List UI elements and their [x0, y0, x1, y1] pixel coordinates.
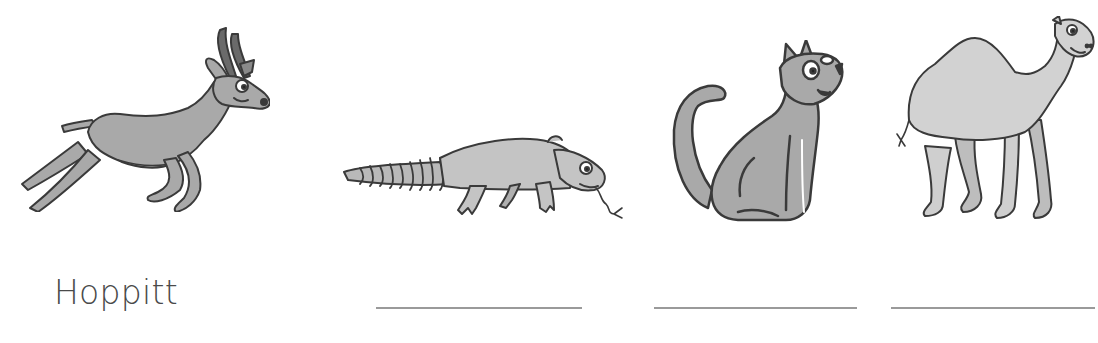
answer-line-cat[interactable] — [654, 307, 857, 309]
answer-line-camel[interactable] — [891, 307, 1095, 309]
cat-picture — [668, 40, 848, 222]
lizard-icon — [340, 128, 625, 223]
camel-picture — [895, 16, 1095, 221]
antelope-picture — [8, 12, 270, 212]
answer-line-lizard[interactable] — [376, 307, 582, 309]
answer-label-antelope: Hoppitt — [54, 276, 178, 309]
cat-icon — [668, 40, 848, 222]
camel-icon — [895, 16, 1095, 221]
antelope-icon — [8, 12, 270, 212]
lizard-picture — [340, 128, 625, 223]
